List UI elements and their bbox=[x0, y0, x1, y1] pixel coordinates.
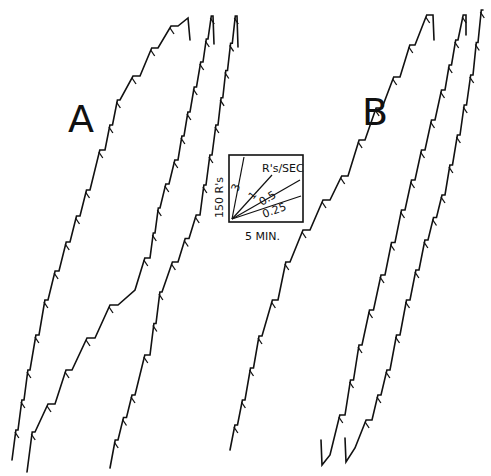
reinforcement-mark bbox=[322, 202, 326, 208]
reinforcement-mark bbox=[54, 273, 58, 279]
reinforcement-mark bbox=[86, 192, 90, 198]
reinforcement-mark bbox=[76, 218, 80, 224]
reinforcement-mark bbox=[86, 340, 90, 346]
figure-canvas: R's/SEC 3 1 0.5 0.25 150 R's 5 MIN. A B bbox=[0, 0, 491, 476]
rate-key: R's/SEC 3 1 0.5 0.25 150 R's 5 MIN. bbox=[213, 155, 304, 243]
reinforcement-mark bbox=[302, 232, 306, 238]
reinforcement-mark bbox=[99, 152, 103, 158]
cumulative-record-B-record-3 bbox=[345, 10, 483, 462]
y-scale-label: 150 R's bbox=[213, 177, 226, 218]
panel-label-a: A bbox=[68, 100, 94, 138]
reinforcement-mark bbox=[65, 244, 69, 250]
reinforcement-mark bbox=[151, 50, 155, 56]
reinforcement-mark bbox=[339, 417, 343, 423]
reinforcement-mark bbox=[171, 264, 175, 270]
reinforcement-mark bbox=[409, 47, 413, 53]
cumulative-records-plot: R's/SEC 3 1 0.5 0.25 150 R's 5 MIN. bbox=[0, 0, 491, 476]
x-scale-label: 5 MIN. bbox=[245, 230, 280, 243]
reinforcement-mark bbox=[426, 17, 430, 23]
reinforcement-mark bbox=[109, 307, 113, 313]
reinforcement-mark bbox=[393, 79, 397, 85]
cumulative-record-B-record-2 bbox=[321, 15, 466, 465]
reinforcement-mark bbox=[47, 406, 51, 412]
reinforcement-mark bbox=[358, 142, 362, 148]
panel-label-b: B bbox=[362, 93, 388, 131]
reinforcement-mark bbox=[341, 178, 345, 184]
reinforcement-mark bbox=[184, 241, 188, 247]
reinforcement-mark bbox=[144, 260, 148, 266]
reinforcement-mark bbox=[271, 302, 275, 308]
reinforcement-mark bbox=[170, 28, 174, 34]
reinforcement-mark bbox=[195, 217, 199, 223]
reinforcement-mark bbox=[132, 78, 136, 84]
reinforcement-mark bbox=[144, 357, 148, 363]
reinforcement-mark bbox=[65, 372, 69, 378]
reinforcement-mark bbox=[365, 422, 369, 428]
cumulative-record-A-record-1 bbox=[12, 18, 190, 460]
rate-label-3: 3 bbox=[229, 182, 244, 193]
rate-header: R's/SEC bbox=[262, 162, 304, 175]
